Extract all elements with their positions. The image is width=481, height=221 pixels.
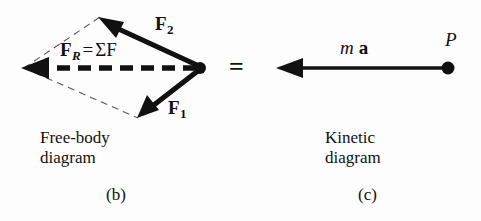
vector-ma-arrowhead [276, 58, 303, 78]
vector-label-f2-subscript: 2 [167, 22, 174, 37]
vector-label-f2: F2 [155, 14, 173, 36]
free-body-caption-line-1: Free-body [40, 128, 110, 148]
vector-label-f2-symbol: F [155, 13, 167, 34]
vector-label-f1-subscript: 1 [180, 106, 187, 121]
figure-root: F2 F1 FR=ΣF Free-body diagram (b) = ma P… [0, 0, 481, 221]
vector-graphics-layer [0, 0, 481, 221]
vector-ma [276, 58, 446, 78]
resultant-equals-sign: = [81, 39, 96, 60]
equals-sign-glyph: = [229, 52, 244, 81]
vector-f1-arrowhead [137, 95, 159, 118]
equals-sign-between-diagrams: = [229, 54, 244, 80]
free-body-caption-line-2: diagram [40, 148, 110, 168]
panel-label-c: (c) [358, 186, 377, 203]
kinetic-diagram-caption: Kinetic diagram [325, 128, 381, 168]
resultant-symbol: F [60, 39, 72, 60]
panel-label-b-text: (b) [106, 185, 126, 204]
vector-label-f1-symbol: F [168, 97, 180, 118]
resultant-sum-expression: ΣF [95, 39, 117, 60]
point-label-p: P [445, 30, 457, 49]
kinetic-caption-line-2: diagram [325, 148, 381, 168]
panel-label-b: (b) [106, 186, 126, 203]
point-label-p-text: P [445, 29, 457, 50]
resultant-subscript: R [72, 48, 81, 63]
vector-f2-arrowhead [98, 17, 124, 38]
panel-label-c-text: (c) [358, 185, 377, 204]
mass-symbol: m [340, 37, 354, 58]
particle-dot-free-body [194, 62, 206, 74]
vector-label-ma: ma [340, 38, 368, 57]
particle-dot-p [442, 62, 455, 75]
acceleration-symbol: a [354, 37, 369, 58]
vector-label-f1: F1 [168, 98, 186, 120]
free-body-diagram-caption: Free-body diagram [40, 128, 110, 168]
vector-label-resultant: FR=ΣF [60, 40, 117, 62]
kinetic-caption-line-1: Kinetic [325, 128, 381, 148]
